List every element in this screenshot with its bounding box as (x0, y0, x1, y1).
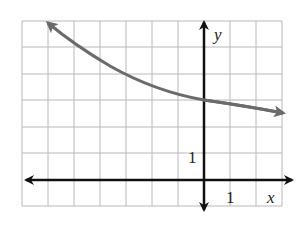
graph: y x 1 1 (0, 0, 300, 228)
y-axis-label: y (212, 25, 222, 44)
x-axis-label: x (266, 188, 275, 207)
y-unit-tick-label: 1 (188, 148, 197, 167)
x-unit-tick-label: 1 (226, 188, 235, 207)
grid (22, 21, 282, 206)
curve-right-arrow (204, 100, 283, 113)
